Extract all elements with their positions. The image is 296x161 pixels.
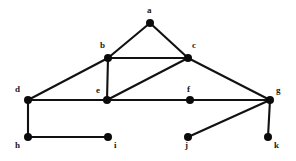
graph-edge-g-j xyxy=(188,100,270,137)
graph-vertex-d xyxy=(24,96,32,104)
graph-vertex-g xyxy=(266,96,274,104)
vertex-label-d: d xyxy=(15,85,20,94)
vertex-label-c: c xyxy=(192,41,196,50)
graph-edge-a-b xyxy=(108,23,150,58)
graph-edge-c-e xyxy=(107,58,188,100)
vertex-label-h: h xyxy=(15,141,20,150)
graph-edge-b-e xyxy=(107,58,108,100)
edge-layer xyxy=(28,23,270,137)
vertex-label-i: i xyxy=(114,141,117,150)
graph-edge-c-g xyxy=(188,58,270,100)
graph-vertex-b xyxy=(104,54,112,62)
vertex-label-f: f xyxy=(187,85,190,94)
graph-vertex-f xyxy=(186,96,194,104)
vertex-label-b: b xyxy=(100,41,105,50)
graph-vertex-e xyxy=(103,96,111,104)
graph-diagram: abcdefghijk xyxy=(0,0,296,161)
vertex-label-e: e xyxy=(96,86,100,95)
graph-edge-a-c xyxy=(150,23,188,58)
vertex-label-j: j xyxy=(185,141,188,150)
graph-canvas xyxy=(0,0,296,161)
vertex-label-g: g xyxy=(276,86,281,95)
graph-vertex-k xyxy=(264,133,272,141)
graph-vertex-h xyxy=(24,133,32,141)
graph-edge-g-k xyxy=(268,100,270,137)
graph-vertex-c xyxy=(184,54,192,62)
vertex-layer xyxy=(24,19,274,141)
graph-vertex-a xyxy=(146,19,154,27)
vertex-label-a: a xyxy=(147,6,152,15)
vertex-label-k: k xyxy=(274,141,279,150)
graph-vertex-i xyxy=(104,133,112,141)
